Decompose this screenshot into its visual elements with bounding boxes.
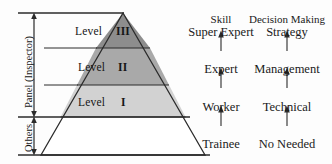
panel-bracket-label: Panel (Inspector) bbox=[24, 36, 35, 108]
pyramid-tier-0-fill bbox=[41, 117, 205, 155]
skill-cell-super-expert: Super Expert bbox=[188, 26, 254, 39]
decision-making-column-header: Decision Making bbox=[249, 14, 325, 25]
pyramid-tier-2-label: Level bbox=[78, 62, 105, 74]
decision-cell-technical: Technical bbox=[263, 101, 311, 114]
pyramid-tier-2-numeral: II bbox=[118, 62, 127, 74]
pyramid-tier-1-numeral: I bbox=[121, 97, 126, 109]
skill-cell-worker: Worker bbox=[202, 101, 239, 114]
decision-cell-management: Management bbox=[254, 63, 319, 76]
skill-cell-trainee: Trainee bbox=[202, 138, 240, 151]
skill-cell-expert: Expert bbox=[204, 63, 237, 76]
decision-cell-no-needed: No Needed bbox=[259, 138, 316, 151]
pyramid-tier-1-label: Level bbox=[78, 97, 105, 109]
pyramid-tier-3-label: Level bbox=[75, 26, 102, 38]
others-bracket-label: Others bbox=[24, 124, 35, 152]
decision-cell-strategy: Strategy bbox=[266, 26, 308, 39]
pyramid-hierarchy-figure: Panel (Inspector) Others Level III Level… bbox=[0, 0, 332, 164]
skill-column-header: Skill bbox=[211, 14, 232, 25]
pyramid-tier-3-numeral: III bbox=[116, 26, 130, 38]
